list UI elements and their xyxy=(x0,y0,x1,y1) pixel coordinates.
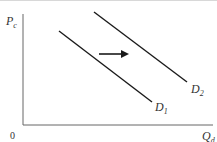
curve-label-d2: D2 xyxy=(191,83,204,100)
curve-label-d1: D1 xyxy=(155,101,168,118)
demand-shift-diagram xyxy=(0,0,217,142)
demand-curve-d1 xyxy=(59,31,152,102)
x-axis-label: Qd xyxy=(202,130,215,142)
origin-label: 0 xyxy=(10,130,15,141)
demand-curve-d2 xyxy=(94,12,187,82)
y-axis-label: Pc xyxy=(6,15,17,32)
shift-arrow-icon xyxy=(99,50,129,58)
